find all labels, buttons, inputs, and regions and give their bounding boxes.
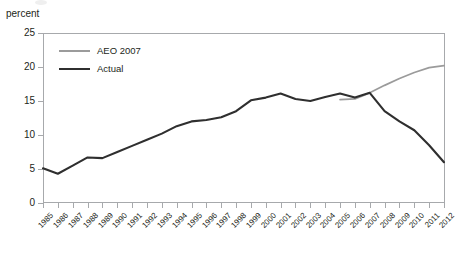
x-tick <box>310 203 311 208</box>
x-tick-label: 2000 <box>259 211 278 230</box>
x-tick-label: 2001 <box>274 211 293 230</box>
y-tick-label: 10 <box>24 130 35 140</box>
x-tick <box>444 203 445 208</box>
y-tick-label: 5 <box>29 164 35 174</box>
legend-swatch-line-icon <box>59 50 90 52</box>
y-axis-caption: percent <box>6 8 39 19</box>
x-tick <box>147 203 148 208</box>
x-tick <box>385 203 386 208</box>
x-tick <box>355 203 356 208</box>
legend-swatch-line-icon <box>59 68 90 70</box>
x-tick <box>251 203 252 208</box>
legend-item-actual[interactable]: Actual <box>59 61 141 77</box>
image-artifact-speck <box>35 0 47 5</box>
x-tick <box>295 203 296 208</box>
x-tick-label: 1987 <box>66 211 85 230</box>
x-tick <box>117 203 118 208</box>
x-tick <box>162 203 163 208</box>
legend-label: Actual <box>97 64 123 74</box>
legend-item-aeo-2007[interactable]: AEO 2007 <box>59 43 141 59</box>
x-tick-label: 2002 <box>289 211 308 230</box>
x-tick <box>399 203 400 208</box>
line-series-actual <box>43 93 444 174</box>
x-tick <box>58 203 59 208</box>
x-tick-label: 1995 <box>185 211 204 230</box>
x-tick <box>43 203 44 208</box>
x-tick <box>177 203 178 208</box>
x-tick <box>236 203 237 208</box>
y-tick-label: 25 <box>24 28 35 38</box>
plot-area: 0510152025 19851986198719881989199019911… <box>43 33 445 203</box>
x-tick <box>132 203 133 208</box>
x-tick <box>73 203 74 208</box>
x-tick-label: 2007 <box>363 211 382 230</box>
x-tick-label: 1994 <box>170 211 189 230</box>
line-series-aeo-2007 <box>340 66 444 100</box>
x-tick-label: 1988 <box>81 211 100 230</box>
chart-figure: percent 0510152025 198519861987198819891… <box>0 0 459 255</box>
x-tick-label: 1993 <box>155 211 174 230</box>
x-tick <box>325 203 326 208</box>
x-tick <box>192 203 193 208</box>
y-tick-label: 0 <box>29 198 35 208</box>
x-tick <box>221 203 222 208</box>
legend-label: AEO 2007 <box>97 46 141 56</box>
x-tick <box>414 203 415 208</box>
x-tick <box>429 203 430 208</box>
x-tick-label: 2008 <box>378 211 397 230</box>
y-tick-label: 20 <box>24 62 35 72</box>
x-tick <box>88 203 89 208</box>
x-tick <box>370 203 371 208</box>
x-tick <box>340 203 341 208</box>
x-tick <box>281 203 282 208</box>
chart-legend: AEO 2007Actual <box>59 43 141 79</box>
y-tick-label: 15 <box>24 96 35 106</box>
x-tick <box>206 203 207 208</box>
x-tick <box>266 203 267 208</box>
x-tick-label: 2012 <box>437 211 456 230</box>
x-tick <box>102 203 103 208</box>
